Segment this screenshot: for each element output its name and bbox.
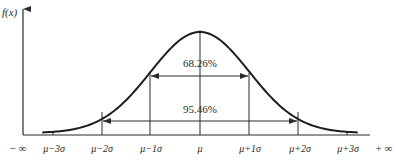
tick-label: μ+3σ (336, 143, 360, 154)
pct-2sigma-label: 95.46% (183, 103, 217, 115)
normal-distribution-chart: 68.26% 95.46% f(x) − ∞ + ∞ μ−3σ μ−2σ μ−1… (0, 0, 396, 163)
pos-infinity-label: + ∞ (376, 142, 393, 154)
tick-label: μ+1σ (238, 143, 262, 154)
pct-1sigma-label: 68.26% (183, 57, 217, 69)
y-axis-label: f(x) (2, 6, 18, 19)
sigma-vertical-lines (102, 30, 298, 135)
tick-label: μ−3σ (42, 143, 66, 154)
x-tick-labels: μ−3σ μ−2σ μ−1σ μ μ+1σ μ+2σ μ+3σ (42, 143, 360, 154)
neg-infinity-label: − ∞ (10, 142, 27, 154)
tick-label: μ−1σ (139, 143, 163, 154)
tick-label: μ+2σ (288, 143, 312, 154)
tick-label: μ (196, 143, 202, 154)
tick-label: μ−2σ (90, 143, 114, 154)
